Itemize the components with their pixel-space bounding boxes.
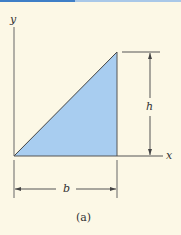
y-axis-label: y bbox=[10, 14, 16, 25]
h-arrow-down-icon bbox=[148, 149, 152, 155]
triangle-diagram bbox=[0, 0, 181, 235]
height-label: h bbox=[146, 101, 153, 112]
b-arrow-left-icon bbox=[15, 187, 21, 191]
b-arrow-right-icon bbox=[110, 187, 116, 191]
h-arrow-up-icon bbox=[148, 53, 152, 59]
x-axis-label: x bbox=[166, 150, 172, 161]
base-label: b bbox=[63, 183, 70, 194]
figure-caption: (a) bbox=[76, 212, 91, 223]
